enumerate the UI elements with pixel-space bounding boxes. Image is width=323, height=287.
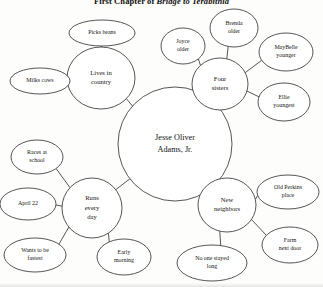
node-four-sisters-label: Four [214,75,227,82]
page-title-book: Bridge to Terabithia [157,0,230,6]
node-races-at-school[interactable]: Races atschool [11,140,63,174]
edge-four-sisters-to-brenda-older [227,46,228,58]
node-races-at-school-label: school [29,157,45,163]
edge-four-sisters-to-maybelle-younger [245,60,262,72]
node-lives-in-country-label: country [91,78,112,85]
node-maybelle-younger-label: younger [276,52,295,58]
node-brenda-older-label: Brenda [225,20,242,26]
node-brenda-older[interactable]: Brendaolder [210,9,258,47]
edge-runs-every-day-to-races-at-school [56,169,70,188]
node-joyce-older-label: older [177,46,189,52]
node-center-label: Jesse Oliver [155,133,195,142]
node-four-sisters[interactable]: Foursisters [192,58,248,110]
node-wants-to-be-fastest-label: fastest [27,255,42,261]
node-joyce-older-label: Joyce [176,38,190,44]
edge-new-neighbors-to-farm-next-door [251,219,266,235]
node-old-perkins-place[interactable]: Old Perkinsplace [257,175,319,209]
node-no-one-stayed-long-label: long [207,263,218,269]
edge-four-sisters-to-ellie-youngest [247,91,259,97]
edge-new-neighbors-to-no-one-stayed-long [220,231,221,245]
node-early-morning-label: morning [114,257,134,263]
node-picks-beans-label: Picks beans [88,29,116,35]
concept-web-diagram: First Chapter of Bridge to Terabithia Je… [0,0,323,287]
node-milks-cows-label: Milks cows [26,77,54,83]
node-wants-to-be-fastest-label: Wants to be [21,247,49,253]
node-farm-next-door-label: Farm [284,237,297,243]
node-new-neighbors-label: New [221,196,234,203]
edge-center-to-runs-every-day [116,179,130,190]
node-april-22-label: April 22 [18,200,38,206]
edge-runs-every-day-to-april-22 [56,205,62,206]
node-old-perkins-place-label: Old Perkins [274,184,303,190]
node-lives-in-country[interactable]: Lives incountry [67,47,135,109]
node-runs-every-day-label: Runs [85,194,99,201]
node-maybelle-younger-label: MayBelle [274,44,298,50]
node-picks-beans[interactable]: Picks beans [69,20,135,46]
node-no-one-stayed-long[interactable]: No one stayedlong [177,245,247,281]
node-ellie-youngest-label: youngest [273,102,295,108]
node-early-morning[interactable]: Earlymorning [97,239,151,275]
edge-center-to-lives-in-country [126,99,132,106]
edge-new-neighbors-to-old-perkins-place [255,196,257,200]
node-runs-every-day[interactable]: Runseveryday [62,178,122,238]
node-old-perkins-place-label: place [282,192,295,198]
node-ellie-youngest-label: Ellie [278,94,290,100]
node-farm-next-door[interactable]: Farmnext door [262,227,318,263]
node-april-22[interactable]: April 22 [0,188,56,220]
page-title: First Chapter of Bridge to Terabithia [0,0,323,6]
node-runs-every-day-label: day [87,213,97,220]
node-ellie-youngest[interactable]: Ellieyoungest [258,83,310,121]
node-races-at-school-label: Races at [27,149,47,155]
node-brenda-older-label: older [228,28,240,34]
node-runs-every-day-label: every [85,204,100,211]
node-new-neighbors[interactable]: Newneighbors [198,178,256,232]
edge-four-sisters-to-joyce-older [198,59,200,65]
node-farm-next-door-label: next door [279,245,301,251]
edge-runs-every-day-to-wants-to-be-fastest [59,227,69,244]
edge-runs-every-day-to-early-morning [108,233,109,242]
page-title-prefix: First Chapter of [94,0,157,6]
node-early-morning-label: Early [118,249,131,255]
web-canvas: Jesse OliverAdams, Jr.Lives incountryPic… [0,0,323,287]
node-new-neighbors-label: neighbors [214,205,240,212]
node-joyce-older[interactable]: Joyceolder [161,28,205,64]
node-layer: Jesse OliverAdams, Jr.Lives incountryPic… [0,9,319,281]
node-wants-to-be-fastest[interactable]: Wants to befastest [4,238,66,272]
node-no-one-stayed-long-label: No one stayed [195,255,229,261]
node-milks-cows[interactable]: Milks cows [10,68,70,94]
node-lives-in-country-label: Lives in [90,69,112,76]
node-maybelle-younger[interactable]: MayBelleyounger [259,33,313,71]
node-center-label: Adams, Jr. [158,145,193,154]
node-four-sisters-label: sisters [212,84,229,91]
